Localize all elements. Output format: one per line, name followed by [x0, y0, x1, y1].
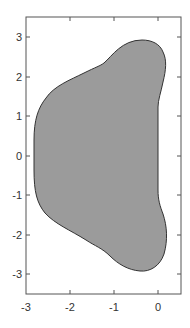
- filled-region: [34, 40, 167, 271]
- y-tick-label: 3: [16, 31, 22, 43]
- y-tick-label: -2: [12, 229, 22, 241]
- y-tick-label: 2: [16, 71, 22, 83]
- x-tick-label: -2: [65, 301, 75, 313]
- x-tick-label: -1: [109, 301, 119, 313]
- y-tick-label: -1: [12, 189, 22, 201]
- x-tick-label: -3: [21, 301, 31, 313]
- x-tick-label: 0: [155, 301, 161, 313]
- y-tick-label: 1: [16, 110, 22, 122]
- y-tick-label: 0: [16, 150, 22, 162]
- chart-canvas: -3 -2 -1 0 -3 -2 -1 0 1 2 3: [0, 0, 190, 328]
- y-tick-label: -3: [12, 268, 22, 280]
